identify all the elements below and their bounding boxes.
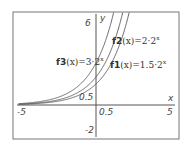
label-f3: f3(x)=3·2x — [56, 55, 104, 67]
y-axis-label: y — [99, 13, 106, 23]
y-tick-half: 0.5 — [79, 92, 94, 102]
x-tick-min: -5 — [17, 107, 26, 117]
label-f2: f2(x)=2·2x — [112, 34, 160, 46]
y-tick-min: -2 — [85, 125, 94, 135]
x-tick-half: 0.5 — [99, 107, 114, 117]
label-f1: f1(x)=1.5·2x — [110, 58, 167, 70]
x-tick-max: 5 — [167, 107, 173, 117]
plot-canvas: x y -5 0.5 5 6 0.5 -2 f2(x)=2·2x f3(x)=3… — [0, 0, 186, 145]
x-axis-label: x — [167, 93, 174, 103]
y-tick-max: 6 — [85, 18, 91, 28]
